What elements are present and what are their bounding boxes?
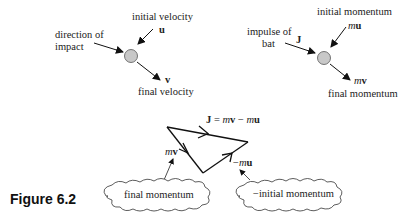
- cloud-right-pointer: [240, 170, 250, 180]
- initial-momentum-symbol: mu: [348, 20, 361, 32]
- initial-momentum-label: initial momentum: [317, 6, 392, 18]
- final-momentum-label: final momentum: [328, 88, 398, 100]
- impulse-label-line2: bat: [262, 38, 275, 50]
- mv-label: mv: [165, 146, 178, 158]
- cloud-left-pointer: [164, 159, 173, 180]
- figure-caption: Figure 6.2: [10, 191, 76, 207]
- cloud-left-text: final momentum: [124, 189, 194, 201]
- initial-velocity-label: initial velocity: [132, 11, 193, 23]
- impact-direction-arrow: [94, 43, 123, 52]
- final-velocity-symbol: v: [165, 74, 170, 86]
- final-momentum-symbol: mv: [354, 75, 367, 87]
- final-momentum-arrow: [330, 64, 350, 80]
- arrowhead-J: [198, 126, 208, 138]
- impulse-label-line1: impulse of: [247, 26, 292, 38]
- ball-icon: [125, 50, 138, 63]
- impulse-equation: J = mv − mu: [206, 114, 260, 126]
- impulse-symbol: J: [296, 34, 301, 46]
- final-velocity-label: final velocity: [138, 86, 194, 98]
- final-velocity-arrow: [137, 62, 160, 80]
- initial-velocity-arrow: [138, 29, 153, 44]
- initial-momentum-arrow: [331, 27, 346, 47]
- impulse-vector-J: [167, 127, 248, 142]
- initial-velocity-symbol: u: [159, 24, 165, 36]
- impact-label-line1: direction of: [55, 29, 104, 41]
- neg-mu-label: −mu: [233, 157, 252, 169]
- ball-icon: [318, 52, 331, 65]
- cloud-right-text: −initial momentum: [253, 188, 334, 200]
- impact-label-line2: impact: [55, 41, 84, 53]
- right-momentum-diagram: [285, 27, 350, 80]
